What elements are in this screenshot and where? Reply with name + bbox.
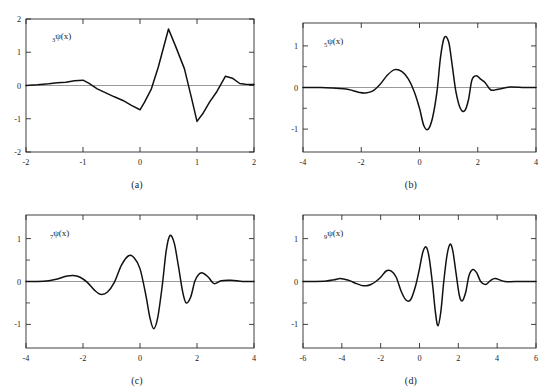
plot-panel-a: -2-1012-2-10123ψ(x) (a): [0, 0, 274, 196]
svg-text:-2: -2: [377, 354, 384, 363]
svg-text:1: 1: [294, 42, 298, 51]
svg-text:-2: -2: [358, 158, 365, 167]
svg-text:-4: -4: [23, 354, 30, 363]
svg-text:-4: -4: [300, 158, 307, 167]
svg-text:2: 2: [252, 158, 256, 167]
svg-text:-1: -1: [14, 115, 21, 124]
svg-text:4: 4: [495, 354, 499, 363]
plot-c-svg: -4-2024-1017ψ(x): [0, 196, 274, 392]
plot-panel-b: -4-2024-1015ψ(x) (b): [274, 0, 548, 196]
curve-label-d: 9ψ(x): [324, 228, 343, 240]
svg-text:2: 2: [195, 354, 199, 363]
svg-text:1: 1: [17, 48, 21, 57]
svg-text:-1: -1: [80, 158, 87, 167]
svg-text:1: 1: [195, 158, 199, 167]
svg-text:-4: -4: [338, 354, 345, 363]
svg-text:0: 0: [138, 354, 142, 363]
svg-text:0: 0: [417, 354, 421, 363]
svg-text:-2: -2: [80, 354, 87, 363]
plot-panel-d: -6-4-20246-1019ψ(x) (d): [274, 196, 548, 392]
svg-text:4: 4: [252, 354, 256, 363]
svg-text:-1: -1: [14, 320, 21, 329]
wavelet-figure: -2-1012-2-10123ψ(x) (a) -4-2024-1015ψ(x)…: [0, 0, 548, 392]
svg-text:2: 2: [17, 15, 21, 24]
panel-caption-d: (d): [274, 375, 548, 386]
curve-label-b: 5ψ(x): [324, 36, 343, 48]
svg-text:-2: -2: [23, 158, 30, 167]
svg-text:-1: -1: [291, 125, 298, 134]
svg-text:-1: -1: [291, 320, 298, 329]
svg-text:2: 2: [476, 158, 480, 167]
svg-text:2: 2: [456, 354, 460, 363]
plot-a-svg: -2-1012-2-10123ψ(x): [0, 0, 274, 196]
plot-panel-c: -4-2024-1017ψ(x) (c): [0, 196, 274, 392]
panel-caption-c: (c): [0, 375, 274, 386]
svg-text:0: 0: [17, 278, 21, 287]
svg-text:0: 0: [17, 82, 21, 91]
svg-text:0: 0: [138, 158, 142, 167]
plot-d-svg: -6-4-20246-1019ψ(x): [274, 196, 548, 392]
svg-text:6: 6: [534, 354, 538, 363]
svg-text:0: 0: [294, 278, 298, 287]
svg-text:1: 1: [294, 235, 298, 244]
svg-text:0: 0: [417, 158, 421, 167]
curve-label-a: 3ψ(x): [52, 31, 71, 43]
svg-text:-6: -6: [300, 354, 307, 363]
curve-label-c: 7ψ(x): [50, 228, 69, 240]
panel-caption-b: (b): [274, 179, 548, 190]
svg-text:-2: -2: [14, 148, 21, 157]
svg-text:0: 0: [294, 84, 298, 93]
plot-b-svg: -4-2024-1015ψ(x): [274, 0, 548, 196]
panel-caption-a: (a): [0, 179, 274, 190]
svg-text:1: 1: [17, 235, 21, 244]
svg-text:4: 4: [534, 158, 538, 167]
